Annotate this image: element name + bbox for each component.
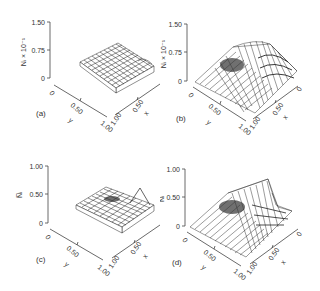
y-tick-mid: 0.50 bbox=[202, 248, 217, 262]
panel-label: (c) bbox=[36, 255, 46, 264]
z-tick-top: 1.50 bbox=[31, 19, 45, 26]
surface-mesh-a bbox=[80, 43, 154, 93]
x-tick-0: 0 bbox=[295, 230, 303, 237]
x-tick-mid: 0.50 bbox=[267, 246, 281, 261]
x-tick-end: 1.00 bbox=[107, 254, 121, 269]
x-axis-label: x bbox=[141, 252, 149, 259]
z-tick-bottom: 0 bbox=[178, 78, 182, 85]
panel-label: (d) bbox=[172, 258, 182, 267]
surface-mesh-d bbox=[190, 179, 292, 257]
panel-label: (a) bbox=[36, 109, 46, 118]
x-axis-label: x bbox=[281, 113, 289, 120]
z-tick-top: 1.00 bbox=[29, 163, 43, 170]
y-tick-mid: 0.50 bbox=[69, 101, 84, 115]
y-axis-label: y bbox=[67, 116, 75, 125]
x-tick-0: 0 bbox=[295, 85, 303, 92]
panel-d: 1.00 0.50 0 N̅ᵢ 0 0.50 1.00 y (d) 1.00 0… bbox=[160, 145, 320, 290]
surface-mesh-b bbox=[195, 41, 297, 113]
z-tick-bottom: 0 bbox=[41, 75, 45, 82]
panel-a: 1.50 0.75 0 Nᵢ × 10⁻¹ 0 0.50 1.00 y (a) … bbox=[0, 0, 160, 145]
surface-plot-b: 1.50 0.75 0 Nᵢ × 10⁻¹ 0 0.50 1.00 y (b) … bbox=[160, 0, 320, 145]
y-tick-0: 0 bbox=[44, 234, 52, 241]
x-tick-end: 1.00 bbox=[248, 115, 262, 130]
z-tick-bottom: 0 bbox=[39, 220, 43, 227]
x-tick-end: 1.00 bbox=[245, 260, 259, 275]
z-tick-top: 1.50 bbox=[168, 21, 182, 28]
z-tick-mid: 0.75 bbox=[168, 49, 182, 56]
y-tick-0: 0 bbox=[187, 92, 195, 99]
y-tick-0: 0 bbox=[181, 237, 189, 244]
z-axis-label: Nᵢ × 10⁻¹ bbox=[20, 37, 27, 66]
surface-mesh-c bbox=[76, 187, 154, 233]
z-axis-label: N̅ᵢ bbox=[16, 192, 23, 199]
surface-plot-c: 1.00 0.50 0 N̅ᵢ 0 0.50 1.00 y (c) 1.00 0… bbox=[0, 145, 160, 291]
z-axis-label: N̅ᵢ bbox=[160, 196, 165, 203]
y-axis-label: y bbox=[200, 263, 208, 272]
y-tick-end: 1.00 bbox=[232, 267, 247, 281]
x-tick-end: 1.00 bbox=[109, 111, 123, 126]
z-axis-label: Nᵢ × 10⁻¹ bbox=[160, 39, 167, 68]
y-tick-mid: 0.50 bbox=[65, 244, 80, 258]
x-axis-label: x bbox=[279, 258, 287, 265]
z-tick-mid: 0.50 bbox=[166, 194, 180, 201]
panel-label: (b) bbox=[176, 114, 186, 123]
z-tick-mid: 0.75 bbox=[31, 47, 45, 54]
z-tick-top: 1.00 bbox=[166, 166, 180, 173]
panel-c: 1.00 0.50 0 N̅ᵢ 0 0.50 1.00 y (c) 1.00 0… bbox=[0, 145, 160, 290]
y-axis-label: y bbox=[205, 118, 213, 127]
panel-b: 1.50 0.75 0 Nᵢ × 10⁻¹ 0 0.50 1.00 y (b) … bbox=[160, 0, 320, 145]
x-axis-label: x bbox=[142, 109, 150, 116]
z-tick-mid: 0.50 bbox=[29, 191, 43, 198]
z-tick-bottom: 0 bbox=[176, 223, 180, 230]
y-tick-0: 0 bbox=[48, 90, 56, 97]
x-tick-mid: 0.50 bbox=[129, 240, 143, 255]
surface-plot-a: 1.50 0.75 0 Nᵢ × 10⁻¹ 0 0.50 1.00 y (a) … bbox=[0, 0, 160, 145]
surface-plot-d: 1.00 0.50 0 N̅ᵢ 0 0.50 1.00 y (d) 1.00 0… bbox=[160, 145, 320, 291]
y-axis-label: y bbox=[63, 260, 71, 269]
